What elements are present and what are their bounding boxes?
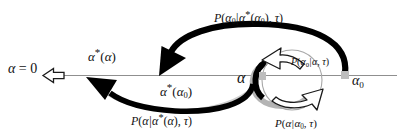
label-alpha-zero-initial: α0 [352,74,364,90]
alpha-mapping-diagram: α = 0 α*(α) α*(α0) α α0 P(α0|α*(α0), τ) … [0,0,397,140]
alpha-arg-glyph: α [177,84,184,99]
paren-close: ) [188,114,192,128]
equals-glyph: = [15,61,30,76]
axis-tick-alpha0 [341,71,349,79]
alpha-glyph: α [142,114,148,128]
alpha-glyph: α [237,69,245,86]
label-probability-bottom-left: P(α|α*(α), τ) [131,113,192,127]
paren-close: ) [279,11,283,25]
label-alpha-star-of-alpha-zero: α*(α0) [160,82,192,100]
label-probability-inner: P(α0|α, τ) [291,57,329,68]
paren-close: ) [326,56,329,67]
diagram-canvas [0,0,397,140]
label-alpha-star-of-alpha: α*(α) [88,47,116,63]
alpha-arg-glyph: α [105,49,112,64]
alpha-glyph: α [88,49,95,64]
hollow-left-arrow-icon [43,69,64,83]
paren-close: ) [112,49,116,64]
label-alpha-current: α [237,70,245,86]
paren-close: ) [188,84,192,99]
p-glyph: P [275,117,282,129]
label-probability-top: P(α0|α*(α0), τ) [214,10,283,26]
zero-glyph: 0 [30,61,37,76]
subscript-zero: 0 [359,80,364,90]
label-probability-bottom-right: P(α|α0, τ) [275,118,317,131]
alpha-glyph: α [160,84,167,99]
label-alpha-equals-zero: α = 0 [8,62,37,76]
paren-close: ) [313,117,317,129]
axis-tick-alpha [259,72,266,80]
